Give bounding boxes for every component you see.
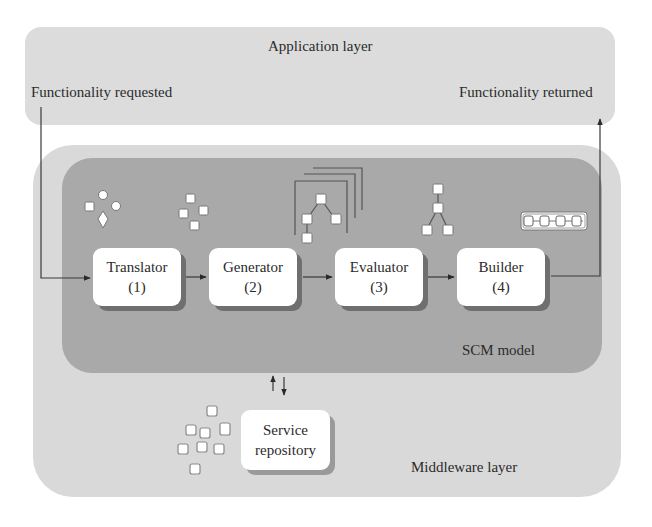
service-repository-line1: Service <box>263 420 308 440</box>
generator-name: Generator <box>223 257 283 277</box>
evaluator-step: (3) <box>370 277 388 297</box>
translator-name: Translator <box>106 257 167 277</box>
middleware-layer-title: Middleware layer <box>411 459 517 476</box>
translator-box: Translator (1) <box>93 248 181 306</box>
functionality-returned-label: Functionality returned <box>459 84 593 101</box>
evaluator-box: Evaluator (3) <box>335 248 423 306</box>
service-repository-box: Service repository <box>241 410 330 470</box>
builder-step: (4) <box>492 277 510 297</box>
generator-step: (2) <box>244 277 262 297</box>
application-layer-title: Application layer <box>268 38 373 55</box>
builder-box: Builder (4) <box>457 248 545 306</box>
evaluator-name: Evaluator <box>350 257 408 277</box>
service-repository-line2: repository <box>255 440 316 460</box>
functionality-requested-label: Functionality requested <box>31 84 172 101</box>
generator-box: Generator (2) <box>209 248 297 306</box>
scm-model-title: SCM model <box>462 342 535 359</box>
builder-name: Builder <box>479 257 524 277</box>
translator-step: (1) <box>128 277 146 297</box>
